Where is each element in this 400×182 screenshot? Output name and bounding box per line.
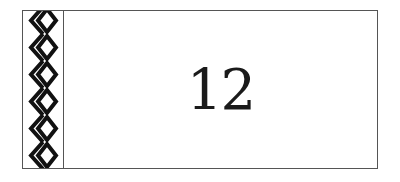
number-card: 12 <box>22 10 378 169</box>
card-number: 12 <box>64 11 377 168</box>
decorative-border-strip <box>23 11 64 168</box>
diamond-chevron-border-icon <box>23 11 63 168</box>
